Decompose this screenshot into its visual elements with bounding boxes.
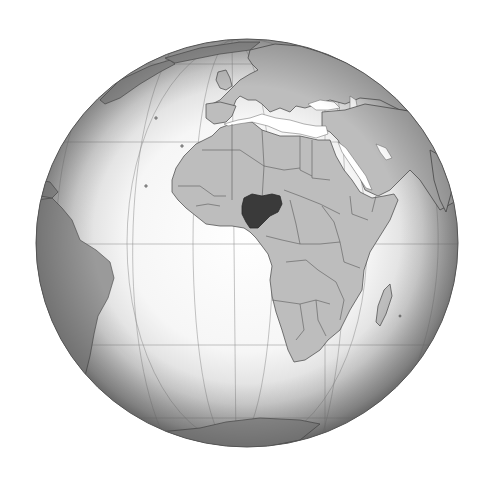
map-stage: Nigeria [0,0,494,478]
globe-limb-shading [36,39,458,447]
globe-map [0,0,494,478]
